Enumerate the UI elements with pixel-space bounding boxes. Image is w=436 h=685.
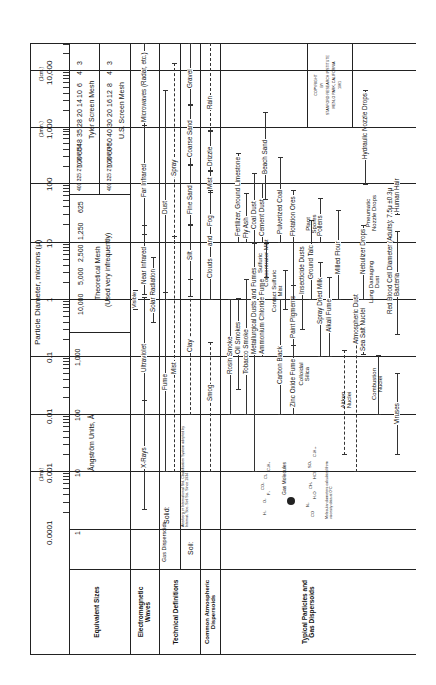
particle-sea-salt-nuclei: Sea Salt Nuclei xyxy=(360,307,366,352)
tyler-4: 4 xyxy=(76,71,83,75)
particle-aitken-nuclei: Aitken Nuclei xyxy=(340,385,353,415)
soil-classification-note: Atterberg or International Std. Classifi… xyxy=(182,415,189,527)
molecule-hcl: HCl xyxy=(312,472,317,479)
technical-divider xyxy=(200,43,201,655)
us-12: 12 xyxy=(106,90,113,98)
tyler-28: 28 xyxy=(76,119,83,127)
atm-mist: Mist xyxy=(207,176,213,190)
atm-rain: Rain xyxy=(207,95,213,110)
particle-contact-sulfuric-mist: Contact Sulfuric Mist xyxy=(271,267,284,315)
tyler-14: 14 xyxy=(76,99,83,107)
theoretical-10000: 10,000 xyxy=(77,294,84,315)
header-equivalent-sizes: Equivalent Sizes xyxy=(94,577,101,647)
us-4: 4 xyxy=(106,71,113,75)
theoretical-mesh-note: (Used very infrequently) xyxy=(104,233,111,307)
us-mesh-label: U.S. Screen Mesh xyxy=(118,82,125,139)
particle-bacteria: Bacteria xyxy=(394,272,400,297)
soil-label: Soil: xyxy=(187,541,194,555)
gas-dispersoids-label: Gas Dispersoids xyxy=(162,522,168,562)
tyler-3: 3 xyxy=(76,61,83,65)
particle-colloidal-silica: Colloidal Silica xyxy=(298,359,311,389)
tick-0.01: 0.01 xyxy=(46,408,54,424)
atm-smog: Smog xyxy=(207,384,213,402)
particle-sulfuric-concentrator: Sulfuric Concentrator Mist xyxy=(257,238,270,288)
particle-combustion-nuclei: Combustion Nuclei xyxy=(371,363,384,405)
tyler-6: 6 xyxy=(76,83,83,87)
molecule-c4h10: C₄H₁₀ xyxy=(312,447,317,457)
tyler-35: 35 xyxy=(76,129,83,137)
row-header-divider xyxy=(69,569,416,570)
equivalent-divider xyxy=(130,43,131,655)
particle-human-hair: Human Hair xyxy=(394,177,400,213)
tech-mist: Mist xyxy=(171,361,177,375)
em-visible: Visible xyxy=(132,291,138,309)
grid-0.1 xyxy=(30,356,416,357)
us-16: 16 xyxy=(106,99,113,107)
particle-flotation-ores: Flotation Ores xyxy=(290,195,296,237)
header-technical-definitions: Technical Definitions xyxy=(173,577,180,647)
grid-100 xyxy=(30,183,416,184)
particle-carbon-black: Carbon Black xyxy=(277,345,283,385)
header-electromagnetic-waves: Electromagnetic Waves xyxy=(138,577,151,647)
angstrom-1: 1 xyxy=(74,531,81,535)
particle-fly-ash: Fly Ash xyxy=(243,216,249,239)
mesh-scale-divider xyxy=(99,43,100,195)
soil-fine-sand: Fine Sand xyxy=(187,184,193,215)
header-typical-particles: Typical Particles and Gas Dispersoids xyxy=(302,577,315,647)
particle-spray-dried-milk: Spray Dried Milk xyxy=(317,277,323,325)
atm-drizzle: Drizzle xyxy=(207,146,213,167)
mesh-scale-edge xyxy=(69,194,130,195)
tick-10: 10 xyxy=(46,239,54,248)
mesh-box-edge xyxy=(69,332,130,333)
us-60: 60 xyxy=(106,147,113,155)
copyright-line-3: STANFORD RESEARCH INSTITUTE xyxy=(327,50,331,120)
em-xrays: X-Rays xyxy=(141,446,147,469)
theoretical-1250: 1,250 xyxy=(77,222,84,240)
molecular-diameter-note: Molecular diameters calculated from visc… xyxy=(326,449,333,519)
theoretical-625: 625 xyxy=(77,201,84,213)
theoretical-2500: 2,500 xyxy=(77,244,84,262)
tyler-mesh-label: Tyler Screen Mesh xyxy=(88,81,95,139)
angstrom-10: 10 xyxy=(74,469,81,477)
us-50: 50 xyxy=(106,138,113,146)
particle-ammonium-chloride: Ammonium Chloride Fume xyxy=(259,278,265,355)
particle-milled-flour: Milled Flour xyxy=(335,240,341,275)
soil-clay: Clay xyxy=(187,338,193,353)
molecule-f2: F₂ xyxy=(266,491,271,495)
molecule-h2: H₂ xyxy=(262,511,267,515)
em-near-infrared: Near Infrared xyxy=(141,246,147,285)
solid-label: Solid: xyxy=(163,506,170,524)
tyler-10: 10 xyxy=(76,90,83,98)
axis-title: Particle Diameter, microns (μ) xyxy=(34,239,42,345)
angstrom-label: Ångström Units, Å xyxy=(88,415,95,471)
molecule-n2: N₂ xyxy=(305,503,310,507)
us-3: 3 xyxy=(106,61,113,65)
tyler-20: 20 xyxy=(76,109,83,117)
particle-lung-damaging-dust: Lung Damaging Dust xyxy=(368,259,381,305)
tech-fume: Fume xyxy=(162,373,168,391)
particle-coal-dust: Coal Dust xyxy=(251,200,257,230)
particle-beach-sand: Beach Sand xyxy=(262,139,268,175)
soil-coarse-sand: Coarse Sand xyxy=(187,119,193,158)
us-30: 30 xyxy=(106,119,113,127)
atm-and: and xyxy=(207,234,213,247)
particle-viruses: Viruses xyxy=(394,402,400,425)
header-common-atmospheric: Common Atmospheric Dispersoids xyxy=(204,571,216,653)
em-divider xyxy=(159,43,160,655)
particle-tobacco-smoke: Tobacco Smoke xyxy=(243,328,249,375)
particle-rosin-smoke: Rosin Smoke xyxy=(227,336,233,375)
angstrom-1000: 1,000 xyxy=(74,348,81,366)
molecule-co: CO xyxy=(310,511,315,517)
tech-spray: Spray xyxy=(171,159,177,177)
particle-pulverized-coal: Pulverized Coal xyxy=(277,189,283,235)
tick-10000: 10,000 xyxy=(46,61,54,85)
copyright-line-5: 1961 xyxy=(339,50,343,120)
copyright-line-1: COPYRIGHT xyxy=(315,50,319,120)
copyright-line-2: BY xyxy=(321,50,325,120)
us-8: 8 xyxy=(106,83,113,87)
em-far-infrared: Far Infrared xyxy=(141,163,147,198)
particle-size-chart: Equivalent Sizes Electromagnetic Waves T… xyxy=(30,43,416,655)
unit-mm: (1mm.) xyxy=(39,121,44,137)
molecule-co2: CO₂ xyxy=(260,482,265,490)
tick-1: 1 xyxy=(46,298,54,302)
